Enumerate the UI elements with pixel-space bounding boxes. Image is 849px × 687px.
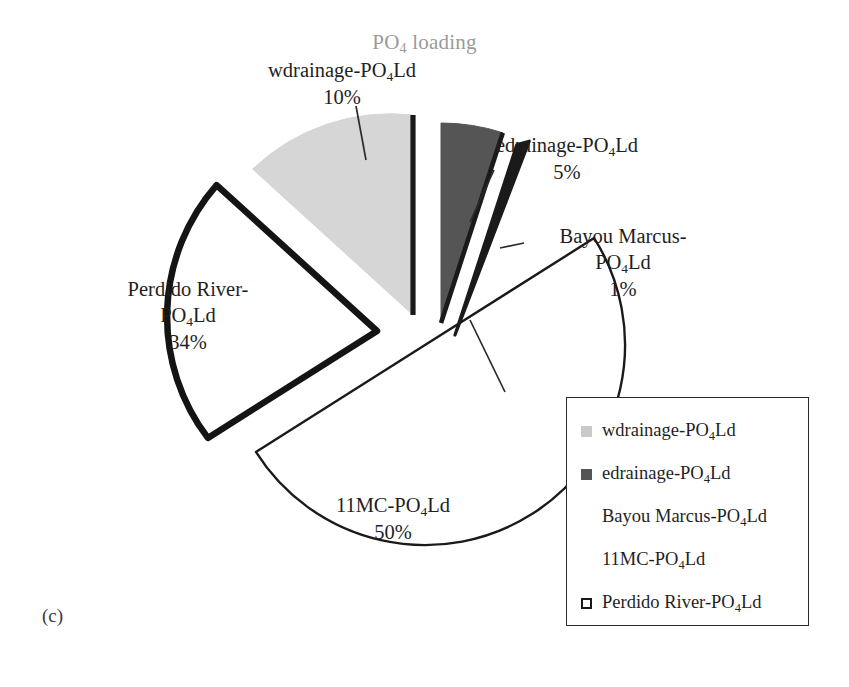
- slice-label-perdido-percent: 34%: [78, 330, 298, 356]
- legend-label-perdido-tail: Ld: [741, 592, 762, 612]
- slice-label-edrainage-name: edrainage-PO: [496, 134, 609, 156]
- legend-label-wdrainage-tail: Ld: [715, 420, 736, 440]
- legend-label-bayou-text: Bayou Marcus-PO: [602, 506, 740, 526]
- legend-label-11mc-text: 11MC-PO: [602, 549, 678, 569]
- legend-label-bayou-marcus: Bayou Marcus-PO4Ld: [602, 506, 767, 530]
- slice-label-bayou-tail: Ld: [628, 251, 651, 273]
- slice-label-edrainage-percent: 5%: [452, 160, 682, 186]
- slice-label-perdido-river: Perdido River-PO4Ld 34%: [78, 277, 298, 356]
- slice-label-perdido-tail: Ld: [193, 304, 216, 326]
- slice-label-wdrainage-name: wdrainage-PO: [268, 59, 386, 81]
- slice-label-11mc-tail: Ld: [427, 494, 450, 516]
- legend: wdrainage-PO4Ld edrainage-PO4Ld Bayou Ma…: [566, 397, 809, 626]
- legend-label-perdido-text: Perdido River-PO: [602, 592, 735, 612]
- slice-label-11mc-name: 11MC-PO: [336, 494, 421, 516]
- legend-item-edrainage[interactable]: edrainage-PO4Ld: [567, 453, 808, 496]
- slice-label-wdrainage: wdrainage-PO4Ld 10%: [212, 58, 472, 111]
- slice-label-11mc: 11MC-PO4Ld 50%: [258, 493, 528, 546]
- legend-label-11mc-tail: Ld: [685, 549, 706, 569]
- legend-swatch-perdido-river-icon: [581, 598, 592, 609]
- legend-label-bayou-tail: Ld: [746, 506, 767, 526]
- leader-line-bayou: [500, 243, 524, 248]
- legend-label-edrainage-text: edrainage-PO: [602, 463, 704, 483]
- slice-label-bayou-name: Bayou Marcus-: [560, 225, 687, 247]
- slice-label-edrainage-tail: Ld: [615, 134, 638, 156]
- slice-label-perdido-name2: PO: [160, 304, 186, 326]
- legend-item-bayou-marcus[interactable]: Bayou Marcus-PO4Ld: [567, 496, 808, 539]
- slice-label-edrainage: edrainage-PO4Ld 5%: [452, 133, 682, 186]
- legend-item-wdrainage[interactable]: wdrainage-PO4Ld: [567, 410, 808, 453]
- legend-label-wdrainage-text: wdrainage-PO: [602, 420, 709, 440]
- legend-swatch-wdrainage-icon: [581, 426, 592, 437]
- legend-swatch-edrainage-icon: [581, 469, 592, 480]
- slice-label-11mc-percent: 50%: [258, 520, 528, 546]
- slice-label-bayou-name2: PO: [595, 251, 621, 273]
- legend-label-edrainage: edrainage-PO4Ld: [602, 463, 731, 487]
- legend-label-11mc: 11MC-PO4Ld: [602, 549, 705, 573]
- panel-caption: (c): [42, 605, 63, 627]
- legend-label-perdido-river: Perdido River-PO4Ld: [602, 592, 762, 616]
- slice-label-perdido-name: Perdido River-: [128, 278, 249, 300]
- legend-swatch-11mc-icon: [581, 555, 592, 566]
- legend-label-wdrainage: wdrainage-PO4Ld: [602, 420, 736, 444]
- slice-label-wdrainage-percent: 10%: [212, 85, 472, 111]
- pie-chart-figure: PO4 loading wdrainage-PO4Ld 10%: [0, 0, 849, 687]
- slice-label-bayou-percent: 1%: [528, 277, 718, 303]
- legend-swatch-bayou-marcus-icon: [581, 512, 592, 523]
- slice-label-wdrainage-tail: Ld: [393, 59, 416, 81]
- legend-label-edrainage-tail: Ld: [710, 463, 731, 483]
- legend-item-perdido-river[interactable]: Perdido River-PO4Ld: [567, 582, 808, 625]
- slice-label-bayou-marcus: Bayou Marcus-PO4Ld 1%: [528, 224, 718, 303]
- legend-item-11mc[interactable]: 11MC-PO4Ld: [567, 539, 808, 582]
